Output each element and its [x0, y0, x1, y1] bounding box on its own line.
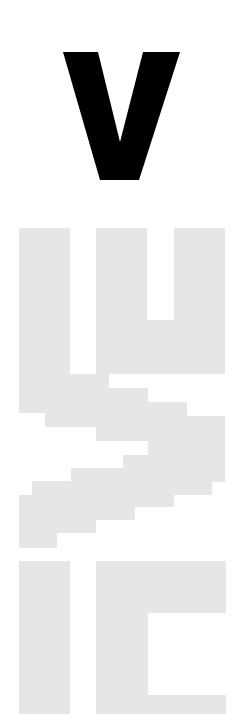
poster-canvas: V [0, 0, 238, 714]
pixel-glyph-i [19, 561, 70, 714]
poster-artwork [0, 0, 238, 714]
